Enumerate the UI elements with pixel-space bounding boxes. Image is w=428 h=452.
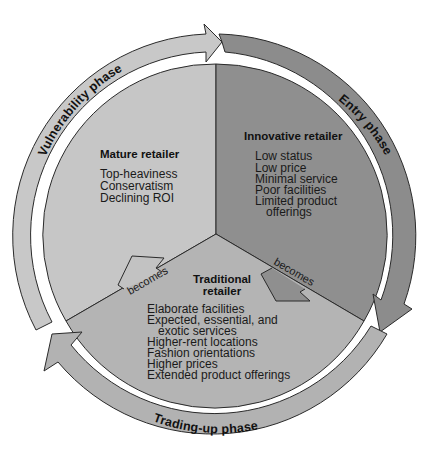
wheel-of-retailing-diagram: Vulnerability phase Entry phase Trading-… — [0, 0, 428, 452]
mature-item: Declining ROI — [100, 191, 174, 205]
traditional-retailer-title-line2: retailer — [203, 285, 242, 297]
mature-retailer-block: Mature retailer Top-heaviness Conservati… — [100, 148, 180, 205]
traditional-retailer-title: Traditional — [193, 273, 251, 285]
mature-retailer-title: Mature retailer — [100, 148, 180, 160]
traditional-item: Extended product offerings — [147, 368, 290, 382]
innovative-item: offerings — [266, 205, 312, 219]
innovative-retailer-title: Innovative retailer — [244, 130, 343, 142]
